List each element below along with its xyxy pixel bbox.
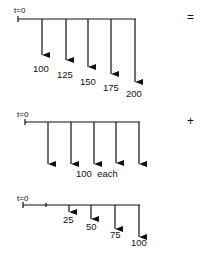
diagram-2-origin-label: t=0: [17, 111, 28, 119]
diagram-3-arrow-label: 25: [63, 215, 74, 225]
diagram-1-arrow-label: 125: [57, 70, 73, 80]
diagram-1-origin-label: t=0: [14, 7, 25, 15]
plus-operator: +: [187, 115, 194, 127]
cash-flow-diagrams: [0, 0, 209, 254]
equals-operator: =: [187, 11, 194, 23]
diagram-3-arrow-label: 100: [131, 238, 147, 248]
diagram-3-arrow-label: 50: [86, 222, 97, 232]
diagram-1-arrow-label: 200: [126, 89, 142, 99]
diagram-3-origin-label: t=0: [17, 195, 28, 203]
diagram-2-caption: 100 each: [76, 169, 118, 179]
diagram-1-arrow-label: 175: [103, 83, 119, 93]
diagram-1-arrow-label: 150: [80, 77, 96, 87]
diagram-3-timeline: [23, 202, 140, 237]
diagram-2-timeline: [25, 119, 140, 164]
diagram-3-arrow-label: 75: [110, 230, 121, 240]
diagram-1-arrow-label: 100: [33, 64, 49, 74]
